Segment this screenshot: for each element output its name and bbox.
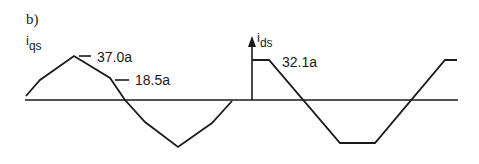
ids-waveform	[252, 60, 457, 143]
arrow-up-icon	[248, 36, 256, 47]
iqs-label: iqs	[26, 33, 42, 47]
iqs-waveform	[26, 56, 232, 147]
ids-label: ids	[257, 30, 273, 44]
ids-label-sub: ds	[260, 36, 273, 50]
panel-label: b)	[26, 12, 39, 27]
iqs-label-sub: qs	[29, 39, 42, 53]
waveform-diagram	[0, 0, 479, 164]
iqs-mid-value: 18.5a	[135, 73, 170, 87]
iqs-peak-value: 37.0a	[97, 50, 132, 64]
ids-level-value: 32.1a	[282, 55, 317, 69]
